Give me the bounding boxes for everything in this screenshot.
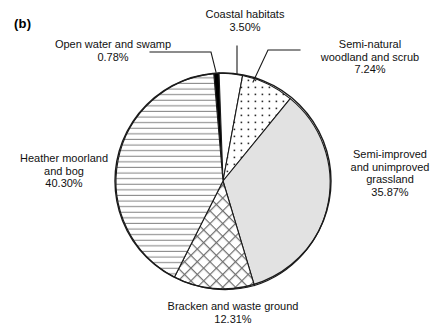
callout-open-water-and-swamp: Open water and swamp 0.78% [42,38,184,63]
callout-bracken-and-waste-ground: Bracken and waste ground 12.31% [135,300,331,325]
callout-semi-improved-and-unimproved-grassland: Semi-improved and unimproved grassland 3… [340,148,440,198]
callout-heather-moorland-and-bog: Heather moorland and bog 40.30% [8,152,120,190]
leader-woodland [253,50,300,82]
pie-slices [115,73,331,290]
callout-coastal-habitats: Coastal habitats 3.50% [186,8,304,33]
pie-chart-figure: (b) [0,0,443,333]
callout-semi-natural-woodland-and-scrub: Semi-natural woodland and scrub 7.24% [303,38,437,76]
